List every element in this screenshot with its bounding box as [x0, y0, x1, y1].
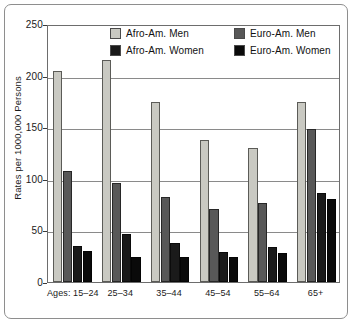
legend-swatch-icon	[234, 45, 245, 56]
y-tick-mark-100	[43, 180, 47, 181]
bar-group	[243, 26, 292, 282]
bar-afro-am-women	[219, 252, 228, 282]
bar-euro-am-men	[307, 129, 316, 282]
x-tick-label-4: 55–64	[242, 288, 291, 299]
chart-legend: Afro-Am. MenEuro-Am. MenAfro-Am. WomenEu…	[110, 28, 346, 62]
bar-afro-am-men	[297, 102, 306, 282]
y-tick-mark-150	[43, 128, 47, 129]
bar-euro-am-women	[180, 257, 189, 282]
x-tick-label-5: 65+	[291, 288, 340, 299]
x-tick-label-0: Ages: 15–24	[47, 288, 96, 299]
legend-label: Euro-Am. Women	[250, 45, 331, 56]
bar-euro-am-men	[161, 197, 170, 282]
y-axis-tick-labels: 050100150200250	[5, 0, 43, 324]
bar-afro-am-men	[248, 148, 257, 282]
bar-group	[97, 26, 146, 282]
legend-entry: Euro-Am. Women	[234, 45, 331, 56]
x-tick-label-3: 45–54	[194, 288, 243, 299]
bar-euro-am-men	[112, 183, 121, 282]
bar-group	[195, 26, 244, 282]
y-tick-label-0: 0	[9, 278, 43, 288]
y-tick-label-100: 100	[9, 175, 43, 185]
bar-euro-am-men	[258, 203, 267, 282]
grouped-bar-chart: Rates per 1000,000 Persons 0501001502002…	[0, 0, 353, 324]
bar-euro-am-women	[83, 251, 92, 282]
bar-euro-am-men	[63, 171, 72, 282]
bar-afro-am-women	[317, 193, 326, 282]
y-tick-label-50: 50	[9, 226, 43, 236]
y-tick-mark-200	[43, 77, 47, 78]
legend-label: Afro-Am. Men	[126, 28, 189, 39]
bar-euro-am-women	[229, 257, 238, 282]
plot-area	[47, 25, 340, 283]
bar-afro-am-women	[122, 234, 131, 283]
x-tick-label-1: 25–34	[96, 288, 145, 299]
x-axis-tick-labels: Ages: 15–2425–3435–4445–5455–6465+	[47, 288, 340, 304]
bar-euro-am-women	[327, 199, 336, 282]
legend-swatch-icon	[234, 28, 245, 39]
legend-entry: Afro-Am. Women	[110, 45, 204, 56]
legend-swatch-icon	[110, 28, 121, 39]
bar-afro-am-men	[200, 140, 209, 282]
bar-afro-am-men	[151, 102, 160, 282]
bar-group	[292, 26, 340, 282]
legend-entry: Euro-Am. Men	[234, 28, 316, 39]
y-tick-mark-0	[43, 283, 47, 284]
bar-afro-am-men	[53, 71, 62, 282]
legend-label: Afro-Am. Women	[126, 45, 204, 56]
bar-afro-am-women	[170, 243, 179, 282]
y-tick-label-250: 250	[9, 20, 43, 30]
y-tick-label-200: 200	[9, 72, 43, 82]
legend-swatch-icon	[110, 45, 121, 56]
y-tick-mark-250	[43, 25, 47, 26]
y-tick-label-150: 150	[9, 123, 43, 133]
bar-euro-am-women	[131, 257, 140, 282]
y-tick-mark-50	[43, 231, 47, 232]
legend-label: Euro-Am. Men	[250, 28, 316, 39]
x-tick-label-2: 35–44	[145, 288, 194, 299]
bar-afro-am-men	[102, 60, 111, 282]
bar-euro-am-women	[278, 253, 287, 282]
bar-afro-am-women	[268, 247, 277, 282]
bar-group	[146, 26, 195, 282]
bar-euro-am-men	[209, 209, 218, 282]
legend-entry: Afro-Am. Men	[110, 28, 189, 39]
bar-group	[48, 26, 97, 282]
bar-afro-am-women	[73, 246, 82, 282]
